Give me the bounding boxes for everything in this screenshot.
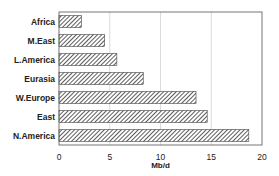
category-labels: AfricaM.EastL.AmericaEurasiaW.EuropeEast…	[13, 17, 55, 141]
bar-l-america	[59, 54, 117, 66]
category-label: M.East	[28, 36, 56, 46]
bar-m-east	[59, 35, 105, 47]
x-axis-title: Mb/d	[151, 161, 170, 170]
x-tick-label: 15	[207, 152, 217, 162]
bar-w-europe	[59, 92, 196, 104]
x-tick-label: 0	[57, 152, 62, 162]
bar-eurasia	[59, 73, 143, 85]
category-label: L.America	[14, 55, 55, 65]
category-label: East	[37, 112, 55, 122]
category-label: W.Europe	[16, 93, 55, 103]
category-label: N.America	[13, 131, 55, 141]
bar-chart: AfricaM.EastL.AmericaEurasiaW.EuropeEast…	[0, 0, 279, 176]
bar-n-america	[59, 130, 249, 142]
category-label: Africa	[31, 17, 55, 27]
category-label: Eurasia	[24, 74, 55, 84]
x-tick-label: 20	[257, 152, 267, 162]
bar-africa	[59, 16, 81, 28]
x-tick-label: 5	[107, 152, 112, 162]
bar-east	[59, 111, 207, 123]
